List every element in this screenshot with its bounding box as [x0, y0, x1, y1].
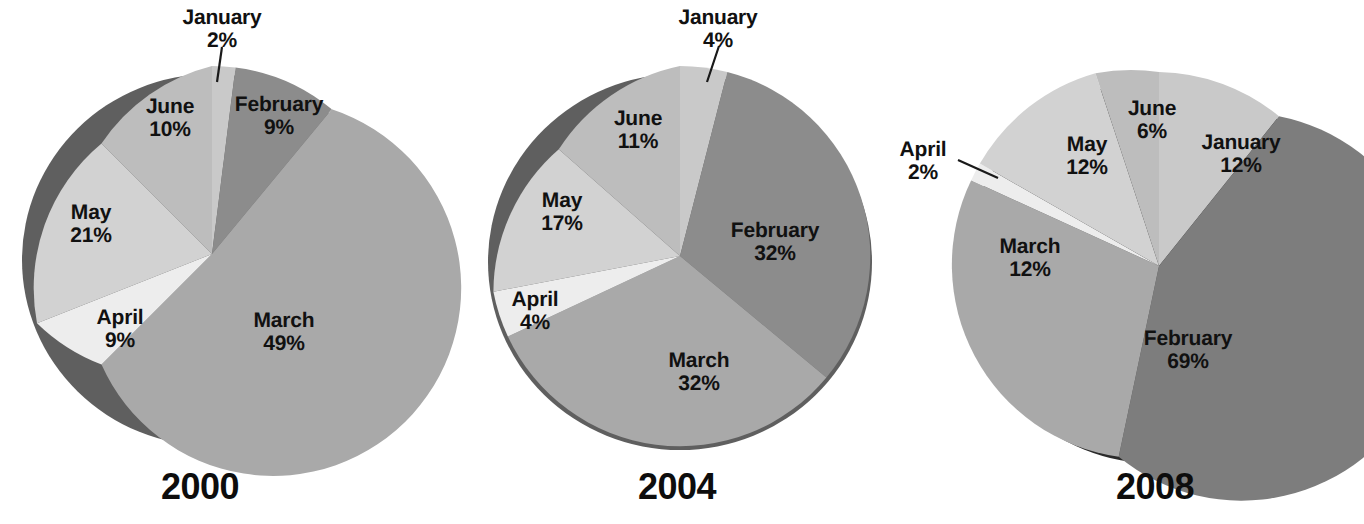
slice-label-january: January 12% [1201, 132, 1280, 177]
slice-label-name: June [1128, 98, 1176, 121]
slice-label-value: 9% [235, 117, 323, 140]
slice-label-june: June 6% [1128, 98, 1176, 143]
slice-label-february: February 69% [1144, 328, 1232, 373]
slice-label-name: January [1201, 132, 1280, 155]
slice-label-value: 9% [97, 330, 144, 353]
slice-label-name: March [669, 350, 730, 373]
pie-chart-figure: January 2% February 9% March 49% April 9… [0, 0, 1364, 524]
slice-label-june: June 11% [614, 108, 662, 153]
slice-label-value: 6% [1128, 121, 1176, 144]
slice-label-may: May 17% [541, 190, 582, 235]
slice-label-name: June [614, 108, 662, 131]
slice-label-value: 2% [182, 30, 261, 53]
slice-label-april: April 9% [97, 307, 144, 352]
slice-label-name: April [900, 139, 947, 162]
slice-label-value: 12% [1000, 259, 1061, 282]
slice-label-value: 69% [1144, 351, 1232, 374]
year-label-2008: 2008 [1116, 466, 1194, 508]
slice-label-may: May 12% [1066, 134, 1107, 179]
pie-graphic-2008 [910, 0, 1364, 470]
slice-label-value: 49% [254, 333, 315, 356]
year-label-2004: 2004 [638, 466, 716, 508]
pie-panel-2004: January 4% February 32% March 32% April … [455, 0, 910, 524]
slice-label-name: March [1000, 236, 1061, 259]
slice-label-name: April [97, 307, 144, 330]
slice-label-name: May [541, 190, 582, 213]
slice-label-february: February 9% [235, 94, 323, 139]
slice-label-value: 32% [731, 243, 819, 266]
slice-label-february: February 32% [731, 220, 819, 265]
pie-panel-2008: January 12% February 69% March 12% April… [910, 0, 1364, 524]
slice-label-name: February [1144, 328, 1232, 351]
slice-label-name: June [146, 96, 194, 119]
slice-label-value: 2% [900, 162, 947, 185]
slice-label-name: March [254, 310, 315, 333]
slice-label-name: April [512, 289, 559, 312]
slice-label-march: March 12% [1000, 236, 1061, 281]
slice-label-name: May [1066, 134, 1107, 157]
pie-graphic-2000 [0, 0, 455, 470]
slice-label-name: February [235, 94, 323, 117]
pie-graphic-2004 [455, 0, 910, 470]
year-label-2000: 2000 [161, 466, 239, 508]
slice-label-value: 10% [146, 119, 194, 142]
slice-label-march: March 32% [669, 350, 730, 395]
slice-label-april: April 2% [900, 139, 947, 184]
slice-label-value: 12% [1066, 157, 1107, 180]
slice-label-january: January 4% [678, 7, 757, 52]
slice-label-value: 12% [1201, 155, 1280, 178]
slice-label-january: January 2% [182, 7, 261, 52]
slice-label-value: 4% [512, 312, 559, 335]
slice-label-name: February [731, 220, 819, 243]
slice-label-value: 21% [70, 225, 111, 248]
slice-label-name: May [70, 202, 111, 225]
slice-label-june: June 10% [146, 96, 194, 141]
slice-label-value: 4% [678, 30, 757, 53]
slice-label-name: January [678, 7, 757, 30]
slice-label-march: March 49% [254, 310, 315, 355]
slice-label-value: 32% [669, 373, 730, 396]
slice-label-may: May 21% [70, 202, 111, 247]
slice-label-name: January [182, 7, 261, 30]
slice-label-value: 17% [541, 213, 582, 236]
slice-label-april: April 4% [512, 289, 559, 334]
slice-label-value: 11% [614, 131, 662, 154]
pie-panel-2000: January 2% February 9% March 49% April 9… [0, 0, 455, 524]
